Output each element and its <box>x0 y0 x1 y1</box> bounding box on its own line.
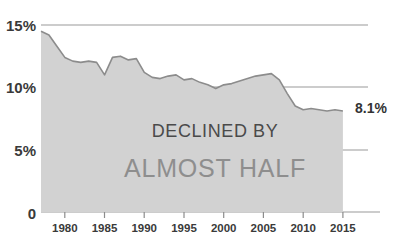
x-tick-label-1990: 1990 <box>131 222 157 234</box>
y-axis-labels: 15% 10% 5% 0 <box>6 17 36 222</box>
x-tick-label-2000: 2000 <box>211 222 237 234</box>
x-axis-ticks <box>65 212 343 218</box>
y-tick-label-5: 5% <box>14 142 36 159</box>
endpoint-value-label: 8.1% <box>355 100 387 116</box>
x-axis-labels: 1980 1985 1990 1995 2000 2005 2010 2015 <box>52 222 356 234</box>
overlay-headline-primary: DECLINED BY <box>152 121 279 141</box>
y-tick-label-15: 15% <box>6 17 36 34</box>
x-tick-label-1995: 1995 <box>171 222 197 234</box>
overlay-headline-secondary: ALMOST HALF <box>124 154 306 182</box>
x-tick-label-2015: 2015 <box>330 222 356 234</box>
chart-container: 15% 10% 5% 0 1980 1985 1990 1995 2000 20… <box>0 0 402 252</box>
x-tick-label-1985: 1985 <box>92 222 118 234</box>
area-chart: 15% 10% 5% 0 1980 1985 1990 1995 2000 20… <box>0 0 402 252</box>
x-tick-label-2005: 2005 <box>251 222 277 234</box>
y-tick-label-0: 0 <box>28 205 36 222</box>
x-tick-label-1980: 1980 <box>52 222 78 234</box>
x-tick-label-2010: 2010 <box>290 222 316 234</box>
y-tick-label-10: 10% <box>6 79 36 96</box>
